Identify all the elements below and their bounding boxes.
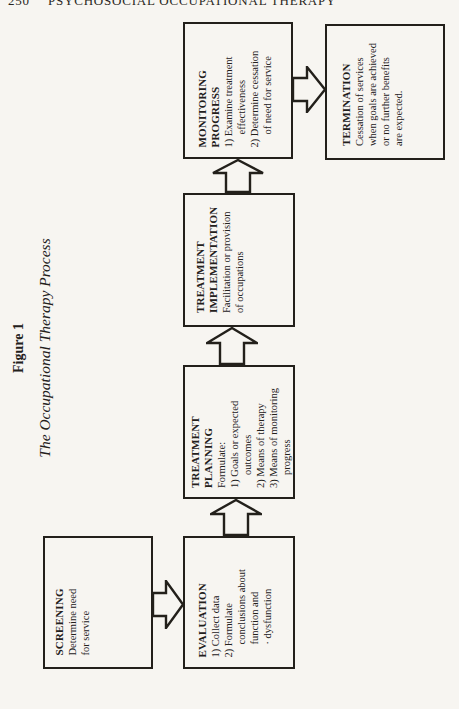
box-line: · dysfunction	[261, 538, 274, 657]
box-title: TERMINATION	[340, 26, 353, 146]
running-head: 250PSYCHOSOCIAL OCCUPATIONAL THERAPY	[8, 0, 336, 9]
box-title: IMPLEMENTATION	[207, 195, 220, 313]
box-treatment-planning: TREATMENT PLANNING Formulate: 1) Goals o…	[183, 365, 295, 499]
flow-arrow-up-icon	[206, 327, 258, 365]
figure-label: Figure 1	[6, 228, 32, 468]
box-line: of need for service	[261, 24, 274, 147]
flow-arrow-right-icon	[152, 580, 184, 629]
figure-title: The Occupational Therapy Process	[32, 228, 57, 468]
page-number: 250	[8, 0, 30, 8]
box-line: 3) Means of monitoring	[267, 367, 280, 488]
box-line: 2) Means of therapy	[254, 367, 267, 488]
box-line: or no further benefits	[379, 26, 392, 146]
box-line: conclusions about	[235, 538, 248, 657]
box-line: when goals are achieved	[366, 26, 379, 146]
box-title: EVALUATION	[196, 538, 209, 657]
box-line: are expected.	[392, 26, 405, 146]
flow-arrow-right-icon	[292, 66, 326, 113]
box-line: effectiveness	[235, 24, 248, 147]
flow-arrow-up-icon	[212, 159, 264, 193]
running-title: PSYCHOSOCIAL OCCUPATIONAL THERAPY	[48, 0, 336, 8]
box-title: PLANNING	[202, 367, 215, 488]
box-screening: SCREENING Determine need for service	[43, 536, 153, 669]
box-line: for service	[79, 538, 92, 655]
box-line: outcomes	[241, 367, 254, 488]
box-termination: TERMINATION Cessation of services when g…	[325, 24, 445, 160]
flow-arrow-up-icon	[210, 499, 262, 536]
box-line: 1) Examine treatment	[222, 24, 235, 147]
box-title: TREATMENT	[194, 195, 207, 313]
box-line: Formulate:	[215, 367, 228, 488]
box-monitoring-progress: MONITORING PROGRESS 1) Examine treatment…	[183, 22, 293, 159]
box-line: 2) Formulate	[222, 538, 235, 657]
box-title: MONITORING	[196, 24, 209, 147]
box-treatment-implementation: TREATMENT IMPLEMENTATION Facilitation or…	[183, 193, 295, 327]
box-line: Determine need	[66, 538, 79, 655]
box-evaluation: EVALUATION 1) Collect data 2) Formulate …	[183, 536, 295, 669]
box-line: 1) Collect data	[209, 538, 222, 657]
box-line: of occupations	[233, 195, 246, 313]
scanned-page: 250PSYCHOSOCIAL OCCUPATIONAL THERAPY Fig…	[0, 0, 459, 709]
box-line: Cessation of services	[353, 26, 366, 146]
box-title: TREATMENT	[189, 367, 202, 488]
box-line: Facilitation or provision	[220, 195, 233, 313]
box-line: 2) Determine cessation	[248, 24, 261, 147]
figure-caption: Figure 1 The Occupational Therapy Proces…	[6, 228, 64, 468]
box-line: function and	[248, 538, 261, 657]
box-line: 1) Goals or expected	[228, 367, 241, 488]
box-title: PROGRESS	[209, 24, 222, 147]
box-line: progress	[280, 367, 293, 488]
box-title: SCREENING	[53, 538, 66, 655]
